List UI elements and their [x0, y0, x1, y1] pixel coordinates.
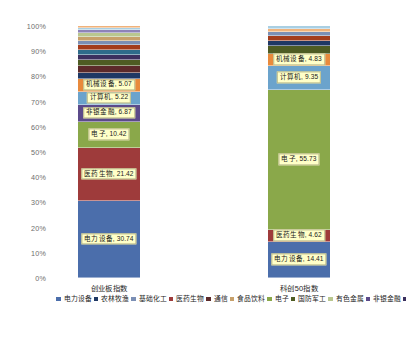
bar-caption-star50: 科创50指数 [239, 282, 359, 293]
y-axis-tick: 40% [31, 173, 46, 182]
bar-segment[interactable]: 机械设备, 5.07 [78, 79, 140, 92]
legend-item[interactable]: 电子 [267, 294, 289, 304]
legend-item[interactable]: 有色金属 [328, 294, 364, 304]
segment-data-label: 机械设备, 5.07 [83, 79, 135, 90]
bar-segment[interactable]: 计算机, 5.22 [78, 92, 140, 105]
y-axis-tick: 0% [35, 274, 46, 283]
bar-segment[interactable]: 医药生物, 21.42 [78, 148, 140, 201]
segment-data-label: 电力设备, 30.74 [81, 234, 136, 245]
stacked-bar-chart: 100%90%80%70%60%50%40%30%20%10%0% 电力设备, … [0, 0, 406, 346]
bar-segment[interactable]: 计算机, 9.35 [268, 66, 330, 90]
legend-item[interactable]: 通信 [206, 294, 228, 304]
bar-star50[interactable]: 电力设备, 14.41医药生物, 4.62电子, 55.73计算机, 9.35机… [268, 26, 330, 278]
segment-data-label: 医药生物, 4.62 [273, 230, 325, 241]
bar-chinext[interactable]: 电力设备, 30.74医药生物, 21.42电子, 10.42非银金融, 6.8… [78, 26, 140, 278]
legend-label: 电力设备 [64, 294, 92, 304]
legend-label: 通信 [214, 294, 228, 304]
legend-label: 医药生物 [176, 294, 204, 304]
segment-data-label: 计算机, 9.35 [277, 72, 321, 83]
bar-segment[interactable] [78, 26, 140, 28]
bar-segment[interactable]: 机械设备, 4.83 [268, 54, 330, 66]
legend-swatch-icon [267, 297, 272, 302]
bar-segment[interactable] [268, 46, 330, 54]
bar-segment[interactable] [78, 30, 140, 33]
legend-swatch-icon [230, 297, 235, 302]
legend-label: 非银金融 [373, 294, 401, 304]
bar-segment[interactable] [78, 66, 140, 72]
bar-segment[interactable]: 电子, 55.73 [268, 90, 330, 230]
y-axis-tick: 30% [31, 198, 46, 207]
y-axis-tick: 50% [31, 148, 46, 157]
legend-label: 基础化工 [139, 294, 167, 304]
legend-item[interactable]: 电力设备 [56, 294, 92, 304]
bar-segment[interactable] [268, 26, 330, 29]
bar-segment[interactable]: 电子, 10.42 [78, 122, 140, 148]
legend-label: 食品饮料 [237, 294, 265, 304]
legend-label: 电子 [275, 294, 289, 304]
bar-segment[interactable]: 医药生物, 4.62 [268, 230, 330, 242]
y-axis-tick: 60% [31, 122, 46, 131]
legend-swatch-icon [328, 297, 333, 302]
bar-segment[interactable] [78, 37, 140, 41]
bar-segment[interactable] [78, 33, 140, 36]
segment-data-label: 医药生物, 21.42 [81, 168, 136, 179]
legend-item[interactable]: 食品饮料 [230, 294, 266, 304]
y-axis-tick: 90% [31, 47, 46, 56]
segment-data-label: 电子, 10.42 [88, 129, 129, 140]
bar-segment[interactable] [78, 60, 140, 66]
legend: 电力设备农林牧渔基础化工医药生物通信食品饮料电子国防军工有色金属非银金融传媒环保… [56, 294, 400, 304]
y-axis-tick: 20% [31, 223, 46, 232]
bar-segment[interactable] [78, 73, 140, 79]
legend-swatch-icon [131, 297, 136, 302]
bar-segment[interactable] [268, 41, 330, 47]
legend-label: 农林牧渔 [101, 294, 129, 304]
bar-segment[interactable] [78, 55, 140, 60]
legend-swatch-icon [366, 297, 371, 302]
y-axis-tick: 80% [31, 72, 46, 81]
legend-swatch-icon [169, 297, 174, 302]
plot-area: 电力设备, 30.74医药生物, 21.42电子, 10.42非银金融, 6.8… [56, 26, 392, 278]
segment-data-label: 电力设备, 14.41 [271, 254, 326, 265]
legend-swatch-icon [56, 297, 61, 302]
y-axis-tick: 70% [31, 97, 46, 106]
legend-item[interactable]: 非银金融 [366, 294, 402, 304]
bar-segment[interactable]: 电力设备, 30.74 [78, 201, 140, 278]
legend-item[interactable]: 基础化工 [131, 294, 167, 304]
legend-item[interactable]: 国防军工 [291, 294, 327, 304]
legend-swatch-icon [291, 297, 296, 302]
bar-segment[interactable] [268, 36, 330, 41]
bar-segment[interactable]: 非银金融, 6.87 [78, 105, 140, 122]
legend-swatch-icon [206, 297, 211, 302]
bar-segment[interactable] [268, 29, 330, 32]
bar-caption-chinext: 创业板指数 [49, 282, 169, 293]
y-axis-tick: 10% [31, 248, 46, 257]
bar-segment[interactable] [78, 50, 140, 55]
segment-data-label: 电子, 55.73 [278, 154, 319, 165]
bar-segment[interactable] [78, 41, 140, 45]
y-axis-tick: 100% [27, 22, 46, 31]
legend-item[interactable]: 医药生物 [169, 294, 205, 304]
legend-swatch-icon [94, 297, 99, 302]
bar-segment[interactable] [78, 45, 140, 50]
segment-data-label: 非银金融, 6.87 [83, 107, 135, 118]
bar-segment[interactable]: 电力设备, 14.41 [268, 242, 330, 278]
bar-segment[interactable] [268, 32, 330, 36]
legend-label: 有色金属 [336, 294, 364, 304]
y-axis: 100%90%80%70%60%50%40%30%20%10%0% [0, 26, 52, 278]
segment-data-label: 机械设备, 4.83 [273, 54, 325, 65]
legend-item[interactable]: 农林牧渔 [94, 294, 130, 304]
segment-data-label: 计算机, 5.22 [87, 92, 131, 103]
bar-segment[interactable] [78, 28, 140, 30]
legend-label: 国防军工 [298, 294, 326, 304]
